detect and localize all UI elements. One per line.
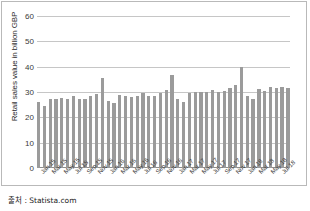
bar xyxy=(43,106,46,168)
y-tick-10: 10 xyxy=(10,138,34,147)
bar xyxy=(136,96,139,168)
y-tick-20: 20 xyxy=(10,113,34,122)
y-tick-0: 0 xyxy=(10,164,34,173)
plot-area xyxy=(37,16,290,168)
chart-figure: Retail sales value in billion GBP 010203… xyxy=(0,0,310,211)
bar xyxy=(159,93,162,168)
bar xyxy=(37,102,40,168)
bar xyxy=(286,88,289,168)
bar xyxy=(263,91,266,168)
bar xyxy=(223,91,226,168)
y-tick-40: 40 xyxy=(10,62,34,71)
bar xyxy=(228,88,231,168)
bar xyxy=(194,92,197,169)
y-axis-tick-labels: 0102030405060 xyxy=(10,0,34,185)
bar xyxy=(275,88,278,168)
bar xyxy=(89,96,92,168)
bar xyxy=(153,96,156,168)
bar xyxy=(66,99,69,168)
y-tick-30: 30 xyxy=(10,88,34,97)
bar xyxy=(240,67,243,168)
bar xyxy=(124,96,127,168)
bar xyxy=(251,99,254,168)
bar xyxy=(54,99,57,168)
bar xyxy=(147,96,150,168)
bar xyxy=(112,103,115,168)
y-tick-60: 60 xyxy=(10,12,34,21)
y-tick-50: 50 xyxy=(10,37,34,46)
bar xyxy=(182,102,185,168)
bar xyxy=(170,75,173,168)
bar xyxy=(101,78,104,168)
source-caption: 출처 : Statista.com xyxy=(8,194,76,205)
bar xyxy=(217,92,220,169)
bar xyxy=(257,89,260,168)
bar xyxy=(205,92,208,168)
bar-series xyxy=(37,16,290,168)
